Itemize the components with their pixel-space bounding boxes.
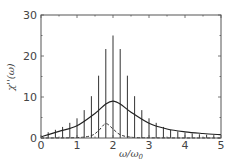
- y-tick-label: 30: [23, 9, 37, 22]
- x-tick-label: 3: [146, 139, 153, 152]
- envelope-curve: [41, 101, 221, 137]
- x-tick-label: 2: [110, 139, 117, 152]
- y-tick-label: 10: [23, 91, 37, 104]
- x-axis-label: ω/ω0: [119, 148, 144, 161]
- x-tick-label: 0: [38, 139, 45, 152]
- y-tick-labels: 0102030: [23, 9, 37, 145]
- x-tick-label: 4: [182, 139, 189, 152]
- y-axis-label: χ''(ω): [5, 63, 16, 92]
- dashed-curve: [41, 124, 221, 138]
- chart: 012345 0102030 ω/ω0 χ''(ω): [0, 0, 231, 167]
- axes-frame: [41, 15, 221, 138]
- plot-area: [41, 36, 221, 139]
- y-tick-label: 0: [30, 132, 37, 145]
- axis-ticks: [41, 15, 221, 138]
- x-tick-label: 5: [218, 139, 225, 152]
- y-tick-label: 20: [23, 50, 37, 63]
- x-tick-label: 1: [74, 139, 81, 152]
